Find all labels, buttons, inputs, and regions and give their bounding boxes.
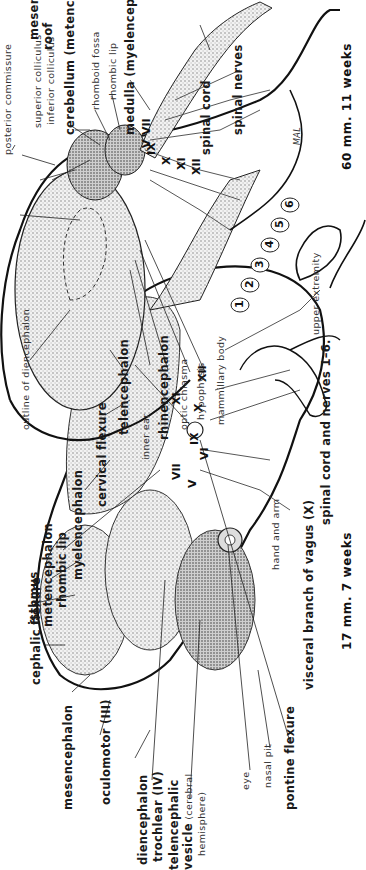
label-myelencephalon: myelencephalon xyxy=(72,470,84,580)
label-oculomotor: oculomotor (III) xyxy=(100,699,112,805)
label-spinal-nerve-2: 2 xyxy=(243,280,256,288)
embryo-brain-diagram: cephalic flexure isthmus metencephalon r… xyxy=(0,0,366,870)
label-mesencephalic-roof-1: mesencephalic xyxy=(28,0,40,40)
label-rhomboid-fossa: rhomboid fossa xyxy=(90,31,102,110)
label-medulla: medulla (myelencephalon) xyxy=(124,0,136,135)
label-cervical-flexure: cervical flexure xyxy=(96,402,108,507)
label-rhombic-lip-60: rhombic lip xyxy=(107,43,119,100)
caption-60mm: 60 mm. 11 weeks xyxy=(340,43,354,170)
label-trochlear: trochlear (IV) xyxy=(152,771,164,862)
label-rhinencephalon: rhinencephalon xyxy=(158,335,170,440)
label-telencephalic: telencephalic xyxy=(168,779,180,870)
label-rhombic-lip-17: rhombic lip xyxy=(56,532,68,608)
caption-17mm: 17 mm. 7 weeks xyxy=(340,532,354,650)
label-spinal-nerve-3: 3 xyxy=(253,260,266,268)
label-outline-diencephalon: outline of diencephalon xyxy=(20,309,32,430)
label-mammillary-body: mammillary body xyxy=(215,336,227,425)
label-spinal-cord-nerves: spinal cord and nerves 1–6. xyxy=(320,339,332,525)
label-hypophysis: hypophysis xyxy=(195,362,207,420)
label-spinal-nerve-4: 4 xyxy=(263,240,276,248)
label-nerve-VII-17: VII xyxy=(170,463,183,480)
label-pontine-flexure: pontine flexure xyxy=(284,706,296,810)
label-nerve-VII-60: VII xyxy=(140,118,153,135)
label-cerebellum: cerebellum (metencephalon) xyxy=(64,0,76,135)
label-visceral-branch-vagus: visceral branch of vagus (X) xyxy=(303,500,315,690)
label-eye: eye xyxy=(240,771,252,790)
label-mesencephalic-roof-2: roof xyxy=(42,22,54,50)
label-nerve-X-60: X xyxy=(160,157,173,165)
artist-signature: MAL xyxy=(292,127,304,145)
label-metencephalon-17: metencephalon xyxy=(42,523,54,627)
label-spinal-nerve-6: 6 xyxy=(283,200,296,208)
label-nerve-IX-60: IX xyxy=(145,142,158,155)
label-optic-chiasma: optic chiasma xyxy=(178,359,190,430)
label-nasal-pit: nasal pit xyxy=(262,744,274,788)
label-vesicle-group: vesicle (cerebral xyxy=(182,773,195,870)
label-inner-ear: inner ear xyxy=(140,413,152,460)
label-posterior-commissure: posterior commissure xyxy=(2,44,14,155)
label-upper-extremity: upper extremity xyxy=(310,252,322,335)
label-spinal-nerve-5: 5 xyxy=(273,220,286,228)
label-nerve-VI-17: VI xyxy=(198,447,211,460)
diagram-artwork xyxy=(0,0,366,870)
label-telencephalon: telencephalon xyxy=(118,339,130,435)
label-nerve-IX-17: IX xyxy=(188,432,201,445)
label-cerebral: (cerebral xyxy=(183,773,194,819)
label-vesicle: vesicle xyxy=(181,823,195,870)
label-spinal-nerves: spinal nerves xyxy=(232,44,244,135)
label-mesencephalon: mesencephalon xyxy=(62,705,74,810)
label-diencephalon: diencephalon xyxy=(137,774,149,865)
label-nerve-V-17: V xyxy=(186,479,199,488)
label-spinal-nerve-1: 1 xyxy=(233,300,246,308)
label-nerve-XII-60: XII xyxy=(190,158,203,175)
label-spinal-cord-60: spinal cord xyxy=(200,80,212,155)
label-nerve-XI-60: XI xyxy=(175,157,188,170)
label-isthmus: isthmus xyxy=(28,571,40,625)
label-hemisphere: hemisphere) xyxy=(196,792,208,856)
label-hand-and-arm: hand and arm xyxy=(270,499,282,570)
